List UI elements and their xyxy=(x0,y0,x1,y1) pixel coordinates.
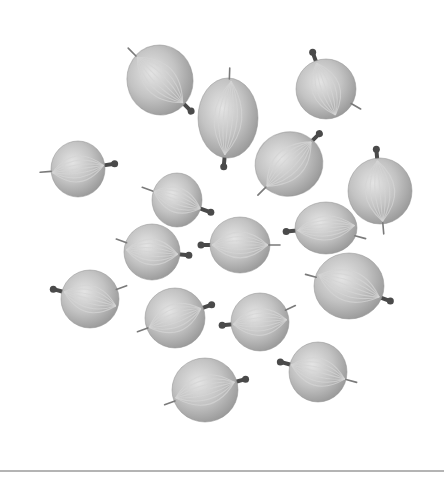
gooseberry xyxy=(198,217,281,273)
gooseberry xyxy=(219,293,296,351)
gooseberry xyxy=(306,253,394,319)
gooseberry xyxy=(121,38,199,125)
gooseberry xyxy=(277,342,357,402)
berry-tip xyxy=(165,401,175,405)
berry-tip xyxy=(40,171,51,172)
berry-tip xyxy=(383,223,384,234)
berry-tip xyxy=(116,239,126,243)
gooseberry xyxy=(142,173,214,227)
calyx-tuft xyxy=(219,322,226,329)
calyx-tuft xyxy=(198,242,205,249)
calyx-tuft xyxy=(283,228,290,235)
calyx-tuft xyxy=(185,252,192,259)
calyx-tuft xyxy=(387,298,394,305)
berry-tip xyxy=(306,274,317,277)
gooseberry xyxy=(137,288,215,348)
berry-tip xyxy=(128,47,136,57)
gooseberry xyxy=(198,68,258,170)
calyx-tuft xyxy=(50,286,57,293)
berry-tip xyxy=(116,286,126,290)
gooseberries-photo xyxy=(0,0,444,478)
gooseberry xyxy=(116,224,192,280)
berry-group xyxy=(40,38,412,422)
gooseberry xyxy=(296,49,361,119)
calyx-tuft xyxy=(309,49,316,56)
calyx-tuft xyxy=(208,301,215,308)
calyx-tuft xyxy=(111,160,118,167)
berry-tip xyxy=(256,187,267,195)
calyx-tuft xyxy=(207,209,214,216)
gooseberry xyxy=(50,270,127,328)
berry-tip xyxy=(142,187,152,191)
berry-tip xyxy=(351,104,361,110)
berry-tip xyxy=(137,328,147,332)
horizontal-rule xyxy=(0,470,444,472)
calyx-tuft xyxy=(220,163,227,170)
gooseberry xyxy=(244,123,337,205)
calyx-tuft xyxy=(277,358,284,365)
gooseberry xyxy=(40,141,118,197)
calyx-tuft xyxy=(242,376,249,383)
berry-tip xyxy=(355,236,366,239)
berry-tip xyxy=(346,380,357,383)
gooseberry xyxy=(165,358,249,422)
calyx-tuft xyxy=(373,146,380,153)
gooseberry xyxy=(348,146,412,234)
berry-tip xyxy=(285,306,295,311)
